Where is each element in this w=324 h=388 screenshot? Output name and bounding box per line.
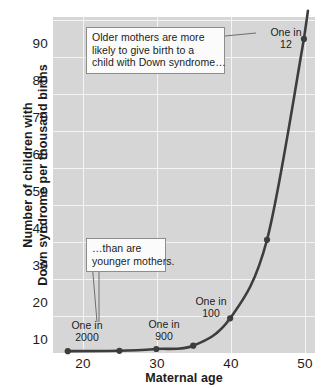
x-tick-40: 40 [211, 356, 251, 371]
annotation-one-in-900-line-1: One in [135, 318, 193, 330]
data-point-age-30 [153, 346, 159, 352]
y-axis-title: Number of children with Down syndrome pe… [21, 50, 51, 300]
data-point-age-25 [116, 348, 122, 354]
annotation-one-in-2000-line-1: One in [58, 319, 116, 331]
annotation-one-in-900: One in 900 [135, 318, 193, 342]
down-syndrome-maternal-age-chart: 10 20 30 40 50 60 70 80 90 Number of chi… [0, 0, 324, 388]
y-tick-90: 90 [4, 37, 48, 51]
data-point-age-18 [65, 348, 71, 354]
callout-younger-mothers: …than are younger mothers. [86, 238, 166, 272]
y-axis-title-line-1: Number of children with [21, 50, 36, 300]
annotation-one-in-100: One in 100 [182, 295, 240, 319]
y-axis-title-line-2: Down syndrome per thousand births [36, 50, 51, 300]
callout-older-line-1: Older mothers are more [92, 31, 219, 44]
annotation-one-in-2000: One in 2000 [58, 319, 116, 343]
callout-younger-line-2: younger mothers. [92, 255, 160, 268]
x-tick-30: 30 [137, 356, 177, 371]
annotation-one-in-12-line-1: One in [257, 26, 315, 38]
annotation-one-in-100-line-2: 100 [182, 307, 240, 319]
callout-older-line-2: likely to give birth to a [92, 44, 219, 57]
y-tick-10: 10 [4, 333, 48, 347]
annotation-one-in-100-line-1: One in [182, 295, 240, 307]
annotation-one-in-12: One in 12 [257, 26, 315, 50]
callout-older-line-3: child with Down syndrome… [92, 56, 219, 69]
annotation-one-in-900-line-2: 900 [135, 330, 193, 342]
x-axis-title: Maternal age [53, 371, 315, 385]
callout-older-mothers: Older mothers are more likely to give bi… [86, 27, 225, 74]
annotation-one-in-12-line-2: 12 [257, 38, 315, 50]
x-tick-50: 50 [285, 356, 324, 371]
data-point-age-45 [264, 237, 270, 243]
callout-younger-line-1: …than are [92, 242, 160, 255]
x-tick-20: 20 [63, 356, 103, 371]
data-point-age-35 [190, 343, 196, 349]
annotation-one-in-2000-line-2: 2000 [58, 331, 116, 343]
